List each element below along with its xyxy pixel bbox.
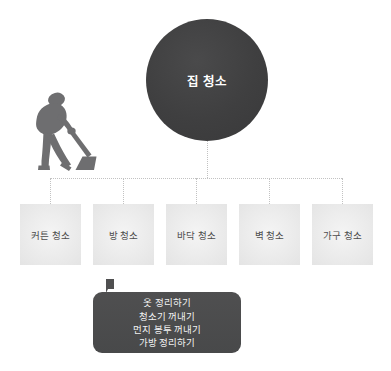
child-box-label: 벽 청소: [255, 228, 284, 242]
connector-child-1-vertical: [50, 178, 51, 204]
connector-child-5-vertical: [342, 178, 343, 204]
connector-child-2-vertical: [123, 178, 124, 204]
callout-tail-pointer: [106, 279, 117, 293]
child-box-label: 방 청소: [109, 228, 138, 242]
callout-tooltip[interactable]: 옷 정리하기 청소기 꺼내기 먼지 봉투 꺼내기 가방 정리하기: [93, 292, 241, 353]
diagram-canvas: 집 청소 커튼 청소 방 청소 바닥 청소 벽 청소 가구 청소 옷 정리하기 …: [0, 0, 391, 371]
callout-line: 옷 정리하기: [143, 296, 190, 309]
child-box-furniture-cleaning[interactable]: 가구 청소: [312, 204, 373, 265]
connector-root-vertical: [207, 141, 208, 178]
child-box-label: 가구 청소: [323, 228, 361, 242]
callout-line: 가방 정리하기: [139, 336, 195, 349]
callout-line: 먼지 봉투 꺼내기: [133, 323, 200, 336]
child-box-wall-cleaning[interactable]: 벽 청소: [239, 204, 300, 265]
root-node-house-cleaning[interactable]: 집 청소: [146, 19, 268, 141]
connector-child-4-vertical: [269, 178, 270, 204]
child-box-room-cleaning[interactable]: 방 청소: [93, 204, 154, 265]
person-vacuuming-silhouette: [26, 92, 98, 174]
child-box-floor-cleaning[interactable]: 바닥 청소: [166, 204, 227, 265]
child-box-curtain-cleaning[interactable]: 커튼 청소: [20, 204, 81, 265]
callout-line: 청소기 꺼내기: [139, 310, 195, 323]
connector-horizontal-bus: [50, 178, 342, 179]
child-box-label: 바닥 청소: [177, 228, 215, 242]
connector-child-3-vertical: [196, 178, 197, 204]
root-node-label: 집 청소: [187, 71, 228, 90]
person-vacuuming-icon: [26, 92, 98, 174]
child-box-label: 커튼 청소: [31, 228, 69, 242]
